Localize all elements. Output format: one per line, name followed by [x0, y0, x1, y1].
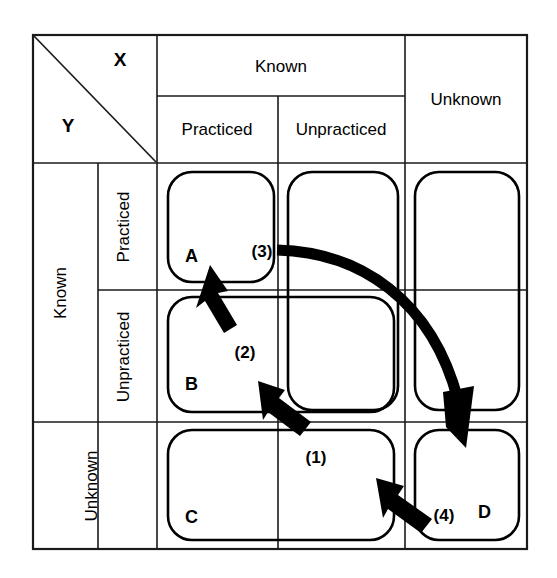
arrow-3 [277, 250, 474, 448]
row-header-practiced: Practiced [114, 192, 133, 263]
marker-label-2: (2) [235, 343, 256, 362]
marker-label-4: (4) [434, 506, 455, 525]
region-rect-c [168, 430, 394, 540]
matrix-diagram: X Y Known Practiced Unpracticed Unknown … [0, 0, 557, 578]
row-header-known: Known [51, 267, 70, 319]
arrow-4 [376, 478, 432, 533]
arrow-3-curve [277, 250, 458, 400]
cell-label-a: A [185, 246, 198, 266]
cell-label-c: C [185, 507, 198, 527]
col-header-practiced: Practiced [182, 120, 253, 139]
row-header-unknown: Unknown [82, 451, 101, 522]
marker-label-3: (3) [252, 242, 273, 261]
col-header-unpracticed: Unpracticed [296, 120, 387, 139]
arrow-2 [196, 265, 237, 333]
region-rect-d [415, 430, 519, 540]
region-rect-a [168, 172, 274, 282]
col-header-known: Known [255, 57, 307, 76]
cell-label-b: B [185, 374, 198, 394]
corner-diagonal-divider [34, 36, 156, 162]
row-header-unpracticed: Unpracticed [114, 312, 133, 403]
arrow-2-glyph [196, 265, 237, 333]
x-axis-label: X [114, 49, 127, 70]
region-rect-unknown-column [415, 172, 519, 410]
marker-label-1: (1) [306, 448, 327, 467]
arrow-3-head [443, 386, 474, 448]
y-axis-label: Y [62, 115, 75, 136]
arrow-4-glyph [376, 478, 432, 533]
cell-label-d: D [478, 502, 491, 522]
diagram-canvas: X Y Known Practiced Unpracticed Unknown … [0, 0, 557, 578]
col-header-unknown: Unknown [431, 90, 502, 109]
region-rect-unpracticed-column [288, 172, 398, 410]
